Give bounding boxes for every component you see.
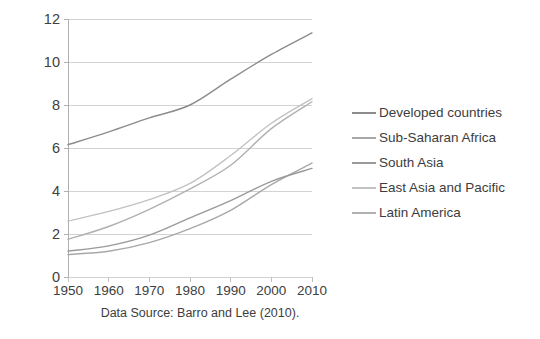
chart-caption: Data Source: Barro and Lee (2010). [60,306,340,321]
legend-item[interactable]: East Asia and Pacific [352,175,538,200]
legend-swatch-line-icon [352,162,376,164]
series-line [68,99,312,222]
series-line [68,163,312,254]
legend-label: Sub-Saharan Africa [379,130,496,145]
x-tick-label: 2010 [288,283,336,299]
legend-label: Developed countries [379,105,502,120]
legend-swatch-line-icon [352,212,376,214]
legend-item[interactable]: Sub-Saharan Africa [352,125,538,150]
y-axis-tick-labels: 024681012 [20,19,60,277]
legend-swatch-line-icon [352,137,376,139]
legend-swatch-line-icon [352,112,376,114]
y-tick-label: 6 [26,141,60,156]
legend-item[interactable]: South Asia [352,150,538,175]
series-line [68,168,312,251]
y-tick-label: 2 [26,227,60,242]
x-axis-tick-labels: 1950196019701980199020002010 [68,283,312,303]
y-tick-label: 10 [26,55,60,70]
series-line [68,33,312,145]
legend-item[interactable]: Latin America [352,200,538,225]
line-chart: 024681012 1950196019701980199020002010 D… [0,0,540,339]
y-tick-label: 8 [26,98,60,113]
legend-label: South Asia [379,155,444,170]
legend-label: Latin America [379,205,461,220]
legend-swatch-line-icon [352,187,376,189]
plot-area [68,19,312,277]
y-tick-label: 12 [26,12,60,27]
legend-item[interactable]: Developed countries [352,100,538,125]
series-line [68,102,312,240]
chart-legend: Developed countriesSub-Saharan AfricaSou… [352,100,538,225]
y-tick-label: 4 [26,184,60,199]
data-series [68,19,312,277]
legend-label: East Asia and Pacific [379,180,505,195]
